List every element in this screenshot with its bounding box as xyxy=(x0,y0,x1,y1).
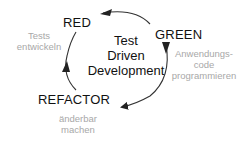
stage-red-note-line-2: entwickeln xyxy=(14,41,64,52)
stage-green-note-line-2: code xyxy=(170,59,238,70)
tdd-cycle-diagram: Test Driven Development RED Tests entwic… xyxy=(0,0,251,146)
stage-green-label: GREEN xyxy=(155,27,202,42)
center-line-3: Development xyxy=(78,63,174,78)
stage-green-note-line-3: programmieren xyxy=(170,70,238,81)
stage-red-label: RED xyxy=(63,15,91,30)
stage-green-note: Anwendungs- code programmieren xyxy=(170,48,238,81)
stage-refactor-note-line-2: machen xyxy=(54,124,102,135)
stage-refactor-note: änderbar machen xyxy=(54,113,102,135)
arrowhead-red-to-green-icon xyxy=(100,9,112,16)
center-line-2: Driven xyxy=(78,48,174,63)
stage-red-note-line-1: Tests xyxy=(14,30,64,41)
stage-red-note: Tests entwickeln xyxy=(14,30,64,52)
stage-refactor-note-line-1: änderbar xyxy=(54,113,102,124)
stage-green-note-line-1: Anwendungs- xyxy=(170,48,238,59)
arrow-refactor-to-red xyxy=(66,32,76,90)
stage-refactor-label: REFACTOR xyxy=(38,92,110,107)
